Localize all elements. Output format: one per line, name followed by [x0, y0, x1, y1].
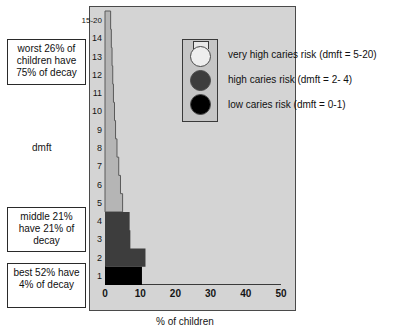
y-axis-tick-14: 14: [92, 34, 102, 43]
y-axis-tick-2: 2: [97, 253, 102, 262]
y-axis-tick-12: 12: [92, 70, 102, 79]
y-axis-tick-7: 7: [97, 162, 102, 171]
y-axis-tick-9: 9: [97, 125, 102, 134]
callout-worst-group: worst 26% of children have 75% of decay: [7, 39, 86, 85]
y-axis-tick-10: 10: [92, 107, 102, 116]
y-axis-tick-13: 13: [92, 52, 102, 61]
y-axis-tick-5: 5: [97, 198, 102, 207]
dark-gray-circle-icon: [190, 70, 211, 91]
y-axis-tick-11: 11: [93, 89, 102, 98]
y-axis-tick-4: 4: [97, 217, 102, 226]
series-high-caries-risk: [105, 212, 145, 267]
y-axis-tick-6: 6: [97, 180, 102, 189]
legend-label-high-caries-risk: high caries risk (dmft = 2- 4): [228, 74, 352, 85]
black-circle-icon: [190, 94, 211, 115]
white-circle-icon: [190, 46, 211, 67]
traffic-light-icon: [182, 39, 218, 122]
x-axis-tick-20: 20: [170, 289, 181, 299]
y-axis-tick-8: 8: [97, 144, 102, 153]
x-axis-tick-30: 30: [205, 289, 216, 299]
legend-label-low-caries-risk: low caries risk (dmft = 0-1): [228, 99, 346, 110]
y-axis-tick-3: 3: [97, 235, 102, 244]
series-very-high-caries-risk: [105, 11, 123, 212]
x-axis-title: % of children: [156, 316, 214, 327]
x-axis-tick-10: 10: [135, 289, 146, 299]
callout-best-group: best 52% have 4% of decay: [7, 263, 86, 308]
x-axis-tick-50: 50: [275, 289, 286, 299]
y-axis-title: dmft: [32, 142, 51, 153]
y-axis-tick-1: 1: [97, 271, 102, 280]
chart-legend: very high caries risk (dmft = 5-20) high…: [182, 31, 400, 129]
legend-label-very-high-caries-risk: very high caries risk (dmft = 5-20): [228, 49, 377, 60]
x-axis-tick-40: 40: [240, 289, 251, 299]
series-low-caries-risk: [105, 267, 142, 285]
x-axis-tick-0: 0: [102, 289, 108, 299]
callout-middle-group: middle 21% have 21% of decay: [7, 207, 86, 252]
y-axis-tick-15-20: 15-20: [82, 16, 102, 25]
